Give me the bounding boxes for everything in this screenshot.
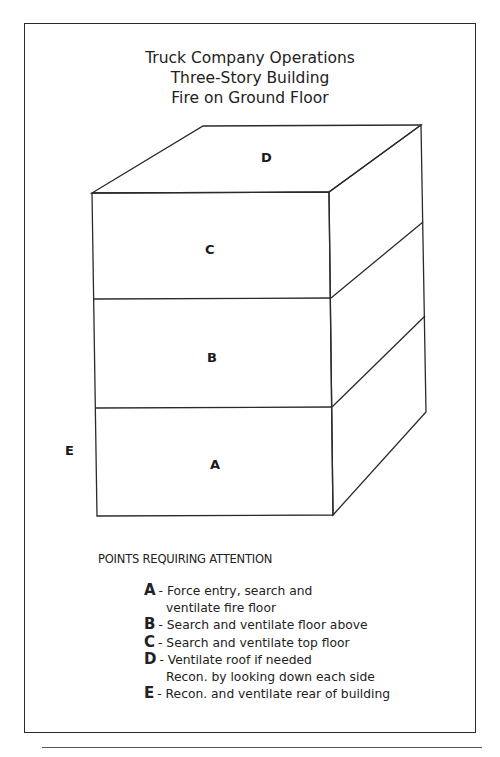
legend-heading: POINTS REQUIRING ATTENTION — [98, 552, 272, 566]
legend-item-a: A- Force entry, search and — [144, 582, 390, 600]
legend-item-d-cont: Recon. by looking down each side — [144, 669, 390, 686]
floor-line-side-upper — [331, 222, 423, 298]
label-second-floor-b: B — [207, 350, 217, 365]
side-face — [329, 125, 426, 515]
legend-item-c: C- Search and ventilate top floor — [144, 634, 390, 652]
bottom-rule — [42, 747, 482, 748]
legend-item-a-cont: ventilate fire floor — [144, 600, 390, 617]
label-top-floor-c: C — [205, 242, 215, 257]
label-ground-floor-a: A — [210, 457, 220, 472]
legend-list: A- Force entry, search and ventilate fir… — [144, 582, 390, 703]
floor-line-front-upper — [94, 298, 331, 299]
floor-line-side-lower — [332, 316, 425, 407]
legend-item-d: D- Ventilate roof if needed — [144, 651, 390, 669]
roof-face — [92, 125, 421, 193]
label-rear-e: E — [65, 443, 74, 458]
label-roof-d: D — [261, 150, 272, 165]
legend-item-e: E- Recon. and ventilate rear of building — [144, 685, 390, 703]
floor-line-front-lower — [96, 407, 332, 408]
legend-item-b: B- Search and ventilate floor above — [144, 616, 390, 634]
